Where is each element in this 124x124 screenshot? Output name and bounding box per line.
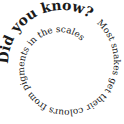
spiral-svg: Did you know? Most snakes get their colo…	[0, 0, 124, 124]
fact-text: Most snakes get their colours from pigme…	[16, 17, 122, 118]
spiral-text-graphic: Did you know? Most snakes get their colo…	[0, 0, 124, 124]
spiral-fact-text: Did you know? Most snakes get their colo…	[0, 0, 122, 118]
